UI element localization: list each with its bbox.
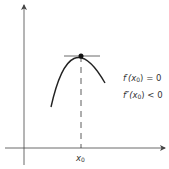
local-maximum-diagram xyxy=(0,0,169,169)
concave-down-curve xyxy=(51,58,105,107)
second-derivative-rest: ) < 0 xyxy=(141,90,162,100)
x0-subscript: 0 xyxy=(81,156,85,163)
first-derivative-fn: f′( xyxy=(123,73,131,83)
critical-point-dot xyxy=(79,54,84,59)
first-derivative-rest: ) = 0 xyxy=(140,73,161,83)
x0-tick-label: x0 xyxy=(76,154,85,163)
first-derivative-condition: f′(x0) = 0 xyxy=(123,74,161,83)
second-derivative-condition: f″(x0) < 0 xyxy=(123,91,163,100)
